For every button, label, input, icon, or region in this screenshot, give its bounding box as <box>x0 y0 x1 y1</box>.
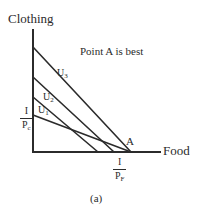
curve-label-u3-sub: 3 <box>64 72 68 80</box>
horizontal-intercept-numerator: I <box>113 157 126 168</box>
point-a-label: A <box>126 136 134 147</box>
horizontal-intercept-fraction: I PF <box>113 157 126 181</box>
vertical-intercept-denominator-sub: c <box>28 124 31 132</box>
annotation-point-a-is-best: Point A is best <box>80 46 143 57</box>
vertical-intercept-denominator: Pc <box>20 120 33 131</box>
horizontal-intercept-denominator-base: P <box>115 170 121 181</box>
economics-indifference-curve-figure: Clothing Food U3 U2 U1 Point A is best A… <box>0 0 204 217</box>
curve-label-u1-sub: 1 <box>45 109 49 117</box>
budget-line <box>33 115 131 152</box>
curve-label-u1: U1 <box>38 105 49 115</box>
vertical-intercept-fraction: I Pc <box>20 106 33 130</box>
figure-caption: (a) <box>90 193 102 204</box>
horizontal-intercept-denominator-sub: F <box>121 175 125 183</box>
curve-label-u2: U2 <box>43 92 54 102</box>
vertical-intercept-denominator-base: P <box>22 119 28 130</box>
curve-label-u2-sub: 2 <box>50 96 54 104</box>
horizontal-intercept-denominator: PF <box>113 171 126 182</box>
x-axis-title: Food <box>163 144 190 157</box>
vertical-intercept-numerator: I <box>20 106 33 117</box>
curve-label-u3: U3 <box>57 68 68 78</box>
y-axis-title: Clothing <box>8 12 54 25</box>
